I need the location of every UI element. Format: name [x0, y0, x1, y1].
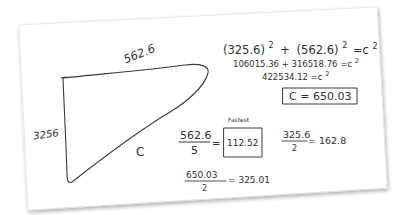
- half-side-result: = 162.8: [308, 135, 346, 146]
- paper-sheet: 562.6 3256 C (325.6) 2 + (562.6) 2 =c 2 …: [0, 0, 405, 215]
- eq1-b: (562.6): [297, 43, 339, 57]
- fastest-numerator: 562.6: [180, 129, 212, 142]
- eq2-exp: 2: [355, 57, 359, 65]
- eq1-plus: +: [280, 43, 290, 57]
- fastest-equals: =: [212, 138, 220, 149]
- fastest-result: 112.52: [227, 138, 259, 148]
- eq1-b-exp: 2: [342, 41, 347, 50]
- eq1-rhs-exp: 2: [373, 42, 378, 51]
- fastest-annotation: Fastest: [228, 116, 250, 123]
- eq1-a: (325.6): [223, 43, 265, 57]
- eq2-text: 106015.36 + 316518.76 =c: [233, 59, 352, 69]
- half-side-denominator: 2: [292, 144, 297, 153]
- half-hypotenuse-result: = 325.01: [228, 175, 270, 185]
- hypotenuse-label: C: [136, 145, 144, 159]
- eq1-a-exp: 2: [269, 41, 274, 50]
- half-hypotenuse-denominator: 2: [202, 184, 207, 193]
- eq1-rhs: =c: [353, 43, 369, 57]
- photo-scene: 562.6 3256 C (325.6) 2 + (562.6) 2 =c 2 …: [0, 0, 405, 215]
- eq3-exp: 2: [325, 70, 329, 78]
- fastest-denominator: 5: [191, 144, 198, 157]
- svg-text:422534.12 =c 2: 422534.12 =c 2: [262, 70, 329, 82]
- eq3-text: 422534.12 =c: [262, 72, 323, 82]
- half-side-numerator: 325.6: [283, 129, 310, 140]
- half-hypotenuse-numerator: 650.03: [186, 170, 218, 180]
- svg-text:106015.36 + 316518.76 =c: 106015.36 + 316518.76 =c 2: [233, 57, 359, 69]
- hypotenuse-result: C = 650.03: [289, 90, 351, 103]
